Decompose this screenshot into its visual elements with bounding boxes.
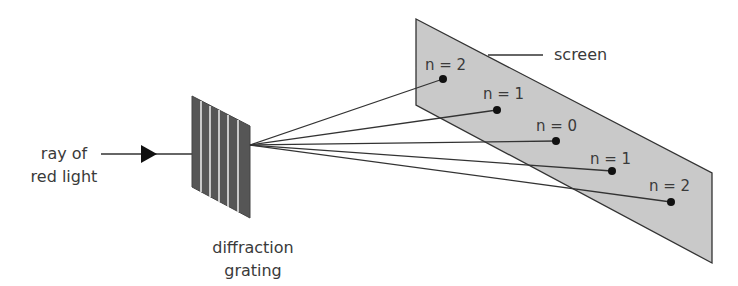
diffraction-grating — [192, 96, 250, 218]
order-label-n0: n = 0 — [536, 117, 577, 135]
source-label-line1: ray of — [41, 144, 88, 163]
screen-label: screen — [554, 45, 607, 64]
order-dot-n1-upper — [493, 106, 501, 114]
order-label-n1-lower: n = 1 — [590, 150, 631, 168]
ray-arrowhead-icon — [141, 145, 157, 163]
source-label-line2: red light — [31, 167, 98, 186]
order-dot-n2-upper — [439, 75, 447, 83]
order-label-n2-upper: n = 2 — [425, 56, 466, 74]
grating-label-line1: diffraction — [212, 238, 293, 257]
order-label-n2-lower: n = 2 — [649, 177, 690, 195]
diffraction-diagram: n = 2 n = 1 n = 0 n = 1 n = 2 screen ray… — [0, 0, 738, 286]
order-dot-n2-lower — [667, 198, 675, 206]
grating-label-line2: grating — [224, 261, 282, 280]
order-label-n1-upper: n = 1 — [483, 85, 524, 103]
order-dot-n0 — [552, 137, 560, 145]
order-dot-n1-lower — [608, 167, 616, 175]
